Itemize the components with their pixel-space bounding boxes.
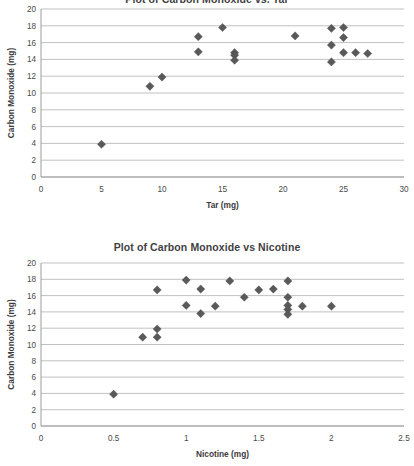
- x-axis-title: Nicotine (mg): [196, 449, 249, 459]
- y-tick-label: 12: [27, 72, 37, 81]
- y-tick-label: 0: [31, 173, 36, 182]
- x-tick-label: 0: [39, 185, 44, 194]
- data-point-marker: [269, 285, 277, 293]
- x-tick-label: 0.5: [108, 434, 120, 443]
- data-point-marker: [339, 33, 347, 41]
- data-point-marker: [284, 277, 292, 285]
- y-tick-label: 18: [27, 22, 37, 31]
- y-tick-label: 14: [27, 55, 37, 64]
- y-tick-label: 6: [31, 373, 36, 382]
- y-tick-label: 4: [31, 139, 36, 148]
- data-point-marker: [240, 293, 248, 301]
- data-point-marker: [182, 301, 190, 309]
- y-tick-label: 2: [31, 406, 36, 415]
- data-point-marker: [298, 302, 306, 310]
- y-tick-label: 0: [31, 422, 36, 431]
- y-tick-label: 20: [27, 5, 37, 14]
- data-point-marker: [284, 293, 292, 301]
- data-point-marker: [146, 82, 154, 90]
- plot-area-tar: 02468101214161820051015202530Tar (mg)Car…: [0, 0, 414, 217]
- data-point-marker: [231, 56, 239, 64]
- data-point-marker: [284, 310, 292, 318]
- data-point-marker: [327, 302, 335, 310]
- data-point-marker: [139, 333, 147, 341]
- data-point-marker: [291, 32, 299, 40]
- x-tick-label: 1: [184, 434, 189, 443]
- y-axis-title: Carbon Monoxide (mg): [6, 48, 16, 139]
- y-tick-label: 10: [27, 341, 37, 350]
- data-point-marker: [339, 49, 347, 57]
- x-tick-label: 1.5: [253, 434, 265, 443]
- data-point-marker: [352, 49, 360, 57]
- x-tick-label: 0: [39, 434, 44, 443]
- y-tick-label: 4: [31, 389, 36, 398]
- data-point-marker: [153, 333, 161, 341]
- y-tick-label: 6: [31, 123, 36, 132]
- data-point-marker: [197, 309, 205, 317]
- data-point-marker: [182, 276, 190, 284]
- x-tick-label: 5: [99, 185, 104, 194]
- y-tick-label: 8: [31, 106, 36, 115]
- data-point-marker: [218, 23, 226, 31]
- data-point-marker: [339, 23, 347, 31]
- data-point-marker: [197, 285, 205, 293]
- data-point-marker: [97, 140, 105, 148]
- x-tick-label: 30: [399, 185, 409, 194]
- y-tick-label: 16: [27, 292, 37, 301]
- y-tick-label: 8: [31, 357, 36, 366]
- y-tick-label: 16: [27, 39, 37, 48]
- y-tick-label: 12: [27, 324, 37, 333]
- data-point-marker: [255, 286, 263, 294]
- y-tick-label: 20: [27, 259, 37, 268]
- y-tick-label: 14: [27, 308, 37, 317]
- x-tick-label: 2: [329, 434, 334, 443]
- data-point-marker: [153, 286, 161, 294]
- chart-carbon-monoxide-vs-tar: Plot of Carbon Monoxide vs. Tar 02468101…: [0, 0, 414, 217]
- data-point-marker: [194, 33, 202, 41]
- data-point-marker: [110, 390, 118, 398]
- y-axis-title: Carbon Monoxide (mg): [6, 299, 16, 390]
- y-tick-label: 10: [27, 89, 37, 98]
- y-tick-label: 2: [31, 156, 36, 165]
- data-point-marker: [211, 302, 219, 310]
- x-tick-label: 25: [339, 185, 349, 194]
- x-tick-label: 20: [278, 185, 288, 194]
- scatter-plot-page: Plot of Carbon Monoxide vs. Tar 02468101…: [0, 0, 414, 466]
- x-tick-label: 2.5: [398, 434, 410, 443]
- x-tick-label: 15: [218, 185, 228, 194]
- data-point-marker: [364, 49, 372, 57]
- data-point-marker: [158, 73, 166, 81]
- x-tick-label: 10: [157, 185, 167, 194]
- data-point-marker: [194, 48, 202, 56]
- y-tick-label: 18: [27, 275, 37, 284]
- chart-carbon-monoxide-vs-nicotine: Plot of Carbon Monoxide vs Nicotine 0246…: [0, 233, 414, 466]
- plot-area-nicotine: 0246810121416182000.511.522.5Nicotine (m…: [0, 233, 414, 466]
- data-point-marker: [226, 277, 234, 285]
- x-axis-title: Tar (mg): [206, 200, 239, 210]
- data-point-marker: [153, 325, 161, 333]
